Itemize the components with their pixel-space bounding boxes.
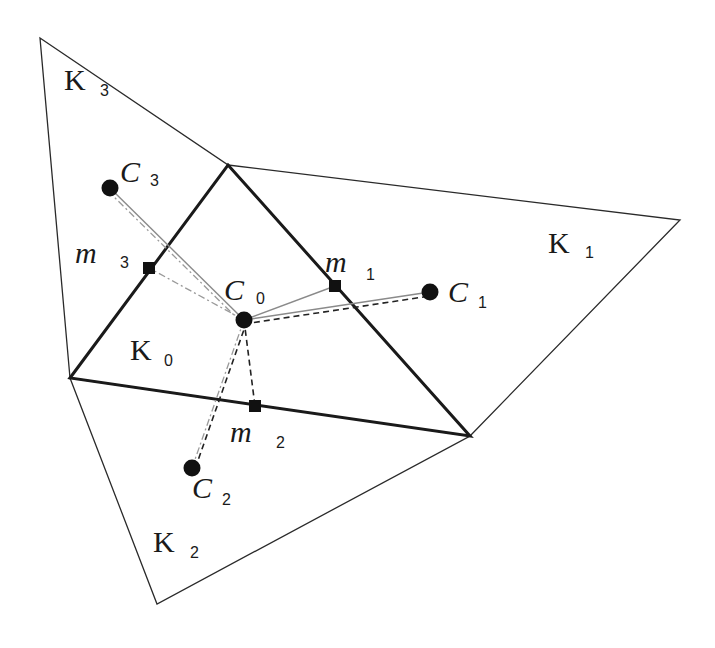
cell-k2-label: K — [153, 525, 175, 558]
cell-k3-label: K — [64, 63, 86, 96]
centroid-c1-dot — [422, 284, 439, 301]
centroid-c0-label: C — [224, 273, 245, 306]
midpoint-m2-square — [249, 400, 261, 412]
midpoint-m3-label: m — [75, 236, 97, 269]
centroid-c1-subscript: 1 — [478, 294, 487, 311]
midpoint-m2-subscript: 2 — [276, 434, 285, 451]
centroid-c2-label: C — [192, 471, 213, 504]
midpoint-m1-label: m — [325, 245, 347, 278]
diagram-svg: K0K1K2K3C0C1C2C3m1m2m3 — [0, 0, 715, 648]
connector-c0-c1 — [244, 292, 430, 320]
centroid-c3-label: C — [120, 155, 141, 188]
midpoint-m3-square — [143, 262, 155, 274]
cells-layer — [40, 38, 680, 604]
centroid-c1-label: C — [448, 275, 469, 308]
cell-k0-outline — [70, 165, 470, 436]
cell-k0-subscript: 0 — [164, 352, 173, 369]
midpoint-m1-subscript: 1 — [366, 266, 375, 283]
midpoint-m1-square — [329, 280, 341, 292]
midpoint-m3-subscript: 3 — [120, 254, 129, 271]
midpoint-m2-label: m — [230, 415, 252, 448]
centroid-c0-subscript: 0 — [256, 290, 265, 307]
cell-k3-subscript: 3 — [100, 82, 109, 99]
centroid-c3-subscript: 3 — [150, 172, 159, 189]
cell-k1-label: K — [548, 226, 570, 259]
cell-k2-subscript: 2 — [190, 544, 199, 561]
connector-c0-m2 — [244, 320, 255, 406]
mesh-diagram: K0K1K2K3C0C1C2C3m1m2m3 — [0, 0, 715, 648]
connections-layer — [107, 188, 430, 469]
centroid-c2-subscript: 2 — [222, 491, 231, 508]
markers-layer — [102, 180, 439, 477]
cell-k1-subscript: 1 — [585, 244, 594, 261]
centroid-c3-dot — [102, 180, 119, 197]
cell-k2-outline — [70, 378, 470, 604]
centroid-c0-dot — [236, 312, 253, 329]
cell-k0-label: K — [130, 333, 152, 366]
